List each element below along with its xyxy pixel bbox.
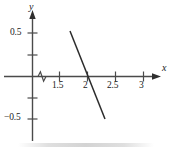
x-tick-label-2: 2 bbox=[83, 80, 88, 90]
graph-figure: 0.5 −0.5 1.5 2 2.5 3 x y bbox=[0, 0, 171, 148]
x-tick-label-1-5: 1.5 bbox=[52, 80, 63, 90]
x-tick-label-2-5: 2.5 bbox=[107, 80, 118, 90]
y-tick-label-neg-0-5: −0.5 bbox=[4, 112, 20, 122]
x-tick-label-3: 3 bbox=[139, 80, 144, 90]
y-tick-label-0-5: 0.5 bbox=[10, 27, 21, 37]
y-axis-label: y bbox=[29, 1, 33, 12]
page-edge-shadow bbox=[18, 143, 154, 147]
coordinate-plane bbox=[0, 0, 171, 148]
x-axis-arrowhead bbox=[152, 73, 161, 79]
x-axis-label: x bbox=[162, 62, 166, 73]
plotted-line-segment bbox=[70, 31, 105, 119]
